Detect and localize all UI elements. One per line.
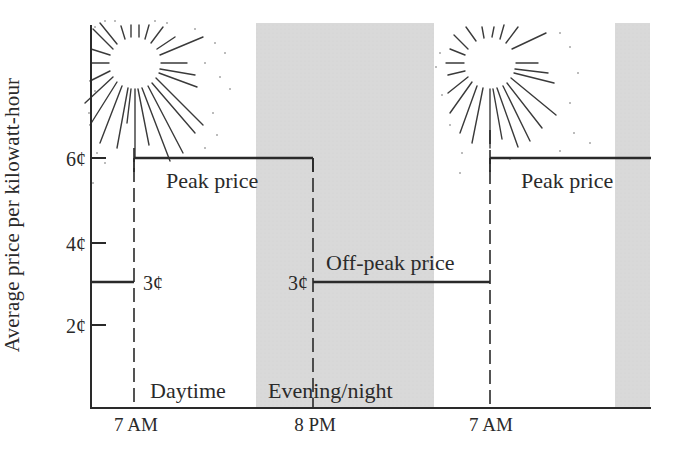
x-tick-label-7am-1: 7 AM — [114, 414, 158, 435]
y-tick-label-2: 2¢ — [66, 315, 86, 337]
sun-icon — [85, 20, 231, 184]
daytime-label: Daytime — [150, 378, 226, 403]
x-tick-label-8pm: 8 PM — [294, 414, 336, 435]
shaded-night-region-1 — [256, 23, 434, 408]
y-tick-label-6: 6¢ — [66, 148, 86, 170]
sun-icon — [435, 25, 591, 174]
shaded-night-region-2 — [615, 23, 650, 408]
three-cents-label-right: 3¢ — [143, 272, 163, 294]
evening-night-label: Evening/night — [268, 378, 393, 403]
three-cents-label-left: 3¢ — [288, 272, 308, 294]
peak-price-label-1: Peak price — [166, 168, 258, 193]
offpeak-price-label: Off-peak price — [326, 250, 454, 275]
x-tick-label-7am-2: 7 AM — [469, 414, 513, 435]
price-chart: 6¢ 4¢ 2¢ Peak price Peak price Off-peak … — [0, 0, 673, 458]
peak-price-label-2: Peak price — [521, 168, 613, 193]
y-tick-label-4: 4¢ — [66, 233, 86, 255]
